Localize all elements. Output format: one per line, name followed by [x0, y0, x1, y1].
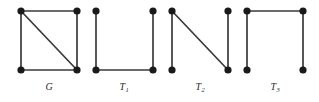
graph-T3-vertices — [243, 7, 306, 73]
vertex-G-top-right — [73, 7, 80, 14]
vertex-T2-bottom-left — [168, 66, 175, 73]
graph-label-T2-text: T — [196, 81, 202, 92]
edge-T2-diagonal — [172, 11, 228, 70]
graph-T3-edges — [247, 11, 303, 70]
graph-label-T3-subscript: 3 — [276, 86, 279, 93]
vertex-T2-top-right — [224, 7, 231, 14]
vertex-T3-bottom-left — [243, 66, 250, 73]
vertex-T2-top-left — [168, 7, 175, 14]
vertex-G-top-left — [17, 7, 24, 14]
graph-figure: GT1T2T3 — [0, 0, 319, 102]
vertex-G-bottom-right — [73, 66, 80, 73]
vertex-T3-top-right — [299, 7, 306, 14]
graph-label-T2: T2 — [196, 82, 205, 92]
vertex-T3-bottom-right — [299, 66, 306, 73]
graph-label-T3: T3 — [271, 82, 280, 92]
vertex-T2-bottom-right — [224, 66, 231, 73]
vertex-T1-bottom-left — [92, 66, 99, 73]
vertex-T1-bottom-right — [149, 66, 156, 73]
graph-G-edges — [21, 11, 77, 70]
edges-layer — [21, 11, 303, 70]
graph-label-T1: T1 — [120, 82, 129, 92]
graph-label-T2-subscript: 2 — [201, 86, 204, 93]
graph-T1-edges — [96, 11, 153, 70]
vertex-T3-top-left — [243, 7, 250, 14]
vertices-layer — [17, 7, 306, 73]
graph-label-G: G — [45, 82, 52, 92]
vertex-T1-top-left — [92, 7, 99, 14]
edge-G-diagonal — [21, 11, 77, 70]
vertex-T1-top-right — [149, 7, 156, 14]
vertex-G-bottom-left — [17, 66, 24, 73]
graph-T1-vertices — [92, 7, 156, 73]
graph-label-G-text: G — [45, 81, 52, 92]
graph-label-T1-subscript: 1 — [125, 86, 128, 93]
graph-label-T1-text: T — [120, 81, 126, 92]
graph-T2-edges — [172, 11, 228, 70]
graph-label-T3-text: T — [271, 81, 277, 92]
